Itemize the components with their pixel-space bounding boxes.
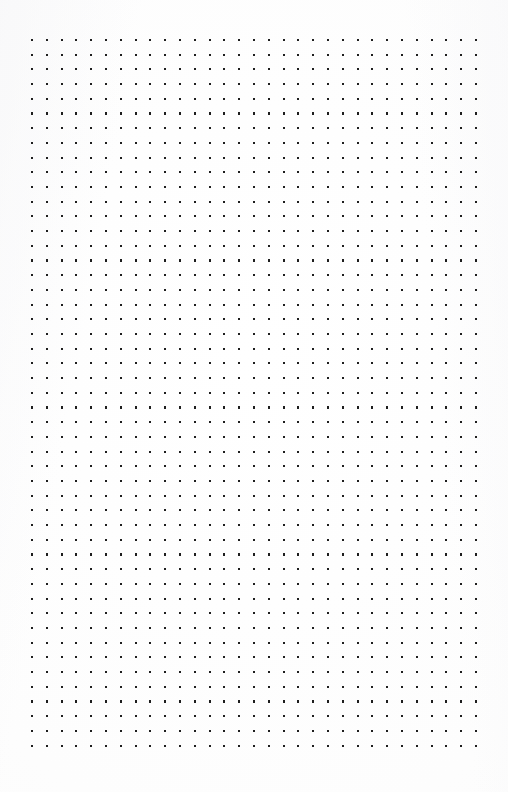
dot-grid-canvas <box>0 0 508 792</box>
dot-grid-page <box>0 0 508 792</box>
dot-grid-svg <box>0 0 508 792</box>
